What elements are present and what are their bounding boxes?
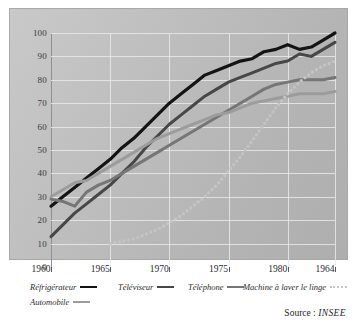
legend-swatch	[330, 286, 347, 288]
source-name: INSEE	[318, 308, 346, 318]
legend-label: Téléphone	[188, 282, 223, 292]
legend-swatch	[157, 286, 174, 288]
y-tick-label: 90	[38, 51, 47, 61]
chart-plate: 0102030405060708090100	[9, 8, 348, 260]
legend-item: Téléviseur	[118, 282, 174, 292]
x-tick-label: 1970	[150, 264, 169, 274]
series-lines	[51, 33, 335, 267]
legend-item: Réfrigérateur	[30, 282, 97, 292]
legend-label: Machine à laver le linge	[243, 282, 326, 292]
y-tick-label: 80	[38, 75, 47, 85]
legend-label: Automobile	[30, 297, 69, 307]
legend-swatch	[73, 301, 90, 303]
y-tick-label: 30	[38, 192, 47, 202]
x-tick-label: 1975	[209, 264, 228, 274]
y-tick-label: 10	[38, 239, 47, 249]
x-tick-label: 1965	[91, 264, 110, 274]
legend-label: Réfrigérateur	[30, 282, 76, 292]
y-tick-label: 100	[33, 28, 47, 38]
x-tick-label: 1964	[316, 264, 335, 274]
plot-area	[51, 33, 335, 267]
x-tick-label: 1960	[32, 264, 51, 274]
y-tick-label: 60	[38, 122, 47, 132]
y-tick-label: 20	[38, 215, 47, 225]
source-prefix: Source :	[284, 308, 315, 318]
y-tick-label: 70	[38, 98, 47, 108]
x-tick-label: 1980	[268, 264, 287, 274]
x-axis-labels: 196019651970197519801964	[0, 264, 357, 278]
series-line	[110, 61, 335, 244]
legend-item: Machine à laver le linge	[243, 282, 347, 292]
y-tick-label: 40	[38, 168, 47, 178]
legend-swatch	[227, 286, 244, 288]
legend-item: Téléphone	[188, 282, 244, 292]
gridline-vertical	[335, 33, 336, 267]
legend-swatch	[80, 286, 97, 288]
y-axis-labels: 0102030405060708090100	[19, 33, 47, 267]
legend-item: Automobile	[30, 297, 90, 307]
legend-label: Téléviseur	[118, 282, 153, 292]
cropped-caption-strip	[0, 0, 357, 8]
series-line	[51, 42, 335, 236]
y-tick-label: 50	[38, 145, 47, 155]
source-note: Source : INSEE	[284, 308, 346, 318]
